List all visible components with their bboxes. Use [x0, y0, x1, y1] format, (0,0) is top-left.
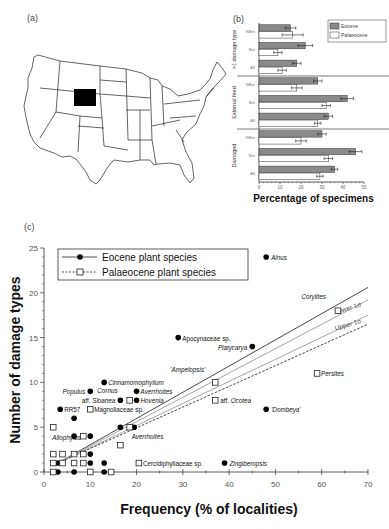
bar-palaeocene [259, 155, 328, 161]
data-point-palaeocene [50, 469, 56, 475]
legend-palaeocene-marker [77, 269, 83, 275]
data-point-eocene [118, 398, 124, 404]
legend-eocene-marker [77, 254, 83, 260]
data-point-palaeocene [71, 460, 77, 466]
data-point-eocene [101, 460, 107, 466]
wyoming-highlight [74, 89, 96, 106]
bar-eocene [259, 60, 297, 66]
data-point-palaeocene [87, 406, 93, 412]
bar-eocene [259, 95, 347, 101]
data-point-eocene [57, 406, 63, 412]
data-point-eocene [249, 344, 255, 350]
data-point-eocene [134, 398, 140, 404]
x-tick-label: 40 [225, 480, 234, 489]
point-label: RR57 [64, 406, 81, 413]
x-tick-label: 40 [340, 185, 346, 190]
bar-eocene [259, 148, 356, 154]
legend-label: Eocene [341, 23, 358, 29]
bar-legend: EocenePalaeocene [328, 20, 386, 42]
data-point-eocene [263, 406, 269, 412]
y-tick-label: 20 [29, 289, 38, 298]
panel-label-b: (b) [233, 14, 244, 24]
point-label: Magnoliaceae sp. [94, 406, 144, 414]
category-label: NBet [246, 29, 256, 34]
point-label: Cornus [97, 387, 118, 394]
data-point-palaeocene [71, 451, 77, 457]
data-point-eocene [71, 415, 77, 421]
x-tick-label: 70 [364, 480, 373, 489]
scatter-chart-panel: (c) 0102030405060700510152025Frequency (… [0, 210, 389, 529]
category-label: NBet [246, 82, 256, 87]
bar-palaeocene [259, 102, 326, 108]
point-label: 'Ampelopsis' [170, 366, 206, 374]
x-axis-title: Percentage of specimens [253, 193, 374, 204]
category-label: Bet [249, 153, 256, 158]
y-tick-label: 5 [34, 423, 39, 432]
data-point-palaeocene [212, 380, 218, 386]
category-label: Bet [249, 47, 256, 52]
data-point-palaeocene [314, 371, 320, 377]
map-panel: (a) [0, 0, 240, 200]
x-axis-title: Frequency (% of localities) [120, 501, 297, 517]
data-point-eocene [101, 469, 107, 475]
bar-eocene [259, 113, 328, 119]
y-tick-label: 15 [29, 334, 38, 343]
x-tick-label: 60 [317, 480, 326, 489]
category-label: All [250, 118, 255, 123]
data-point-palaeocene [60, 460, 66, 466]
us-map [0, 0, 240, 200]
legend-swatch [330, 32, 339, 38]
bar-palaeocene [259, 120, 318, 126]
group-label: Damaged [231, 144, 237, 168]
x-tick-label: 30 [178, 480, 187, 489]
point-label: Hovenia [141, 397, 165, 404]
data-point-palaeocene [335, 308, 341, 314]
legend-swatch [330, 23, 339, 29]
point-label: Averrhoites [131, 433, 165, 440]
data-point-eocene [87, 389, 93, 395]
bar-eocene [259, 131, 322, 137]
point-label: Allophylus [51, 434, 82, 442]
point-label: aff. Sloanea [82, 397, 116, 404]
data-point-palaeocene [81, 460, 87, 466]
data-point-eocene [118, 424, 124, 430]
x-tick-label: 50 [271, 480, 280, 489]
point-label: Populus [63, 388, 87, 396]
data-point-palaeocene [87, 469, 93, 475]
bar-chart: 01020304050Percentage of specimens>1 dam… [222, 0, 389, 210]
data-point-eocene [263, 254, 269, 260]
panel-label-c: (c) [24, 222, 35, 232]
scatter-legend: Eocene plant speciesPalaeocene plant spe… [58, 249, 248, 280]
data-point-eocene [87, 451, 93, 457]
data-point-palaeocene [118, 442, 124, 448]
category-label: All [250, 65, 255, 70]
x-tick-label: 10 [86, 480, 95, 489]
scatter-chart: 0102030405060700510152025Frequency (% of… [0, 210, 389, 529]
category-label: NBet [246, 135, 256, 140]
point-label: Apocynaceae sp. [182, 335, 231, 343]
bar-eocene [259, 78, 318, 84]
category-label: All [250, 171, 255, 176]
us-outline [24, 55, 226, 184]
bar-eocene [259, 166, 335, 172]
data-point-palaeocene [50, 451, 56, 457]
x-tick-label: 0 [42, 480, 47, 489]
annotation-upper-sigma: Upper 1σ [334, 317, 362, 332]
data-point-palaeocene [81, 451, 87, 457]
point-label: Cinnamomophyllum [108, 379, 164, 387]
data-point-palaeocene [81, 433, 87, 439]
data-point-eocene [87, 433, 93, 439]
bar-palaeocene [259, 173, 320, 179]
point-label: Zingiberopsis [229, 460, 268, 468]
x-tick-label: 30 [319, 185, 325, 190]
x-tick-label: 10 [277, 185, 283, 190]
data-point-palaeocene [50, 460, 56, 466]
data-point-palaeocene [212, 398, 218, 404]
y-tick-label: 0 [34, 468, 39, 477]
data-point-palaeocene [108, 469, 114, 475]
point-label: Alnus [270, 254, 288, 261]
data-point-eocene [222, 460, 228, 466]
group-label: >1 damage type [231, 30, 237, 70]
y-tick-label: 25 [29, 244, 38, 253]
data-point-palaeocene [127, 398, 133, 404]
